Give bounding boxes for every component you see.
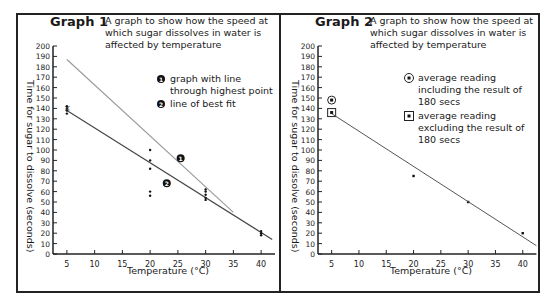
svg-text:25: 25 [173, 260, 183, 269]
svg-text:190: 190 [36, 52, 51, 61]
svg-text:50: 50 [40, 198, 50, 207]
svg-text:60: 60 [40, 188, 50, 197]
svg-text:180: 180 [301, 63, 316, 72]
svg-text:50: 50 [305, 198, 315, 207]
graph-1-plot: 0102030405060708090100110120130140150160… [0, 0, 280, 307]
svg-text:5: 5 [64, 260, 69, 269]
svg-text:110: 110 [36, 136, 51, 145]
svg-text:80: 80 [305, 167, 315, 176]
svg-text:40: 40 [518, 260, 528, 269]
svg-text:200: 200 [36, 42, 51, 51]
svg-text:90: 90 [305, 156, 315, 165]
svg-text:0: 0 [45, 250, 50, 259]
svg-text:30: 30 [463, 260, 473, 269]
svg-text:10: 10 [354, 260, 364, 269]
svg-text:100: 100 [301, 146, 316, 155]
svg-text:2: 2 [165, 180, 169, 187]
svg-text:35: 35 [490, 260, 500, 269]
svg-text:15: 15 [117, 260, 127, 269]
svg-text:30: 30 [305, 219, 315, 228]
svg-text:130: 130 [301, 115, 316, 124]
svg-text:140: 140 [301, 104, 316, 113]
svg-text:10: 10 [90, 260, 100, 269]
svg-text:35: 35 [228, 260, 238, 269]
svg-text:160: 160 [36, 84, 51, 93]
svg-text:25: 25 [436, 260, 446, 269]
svg-text:150: 150 [36, 94, 51, 103]
svg-text:40: 40 [305, 208, 315, 217]
svg-text:20: 20 [305, 229, 315, 238]
svg-text:10: 10 [40, 240, 50, 249]
svg-text:0: 0 [310, 250, 315, 259]
svg-text:40: 40 [256, 260, 266, 269]
svg-text:20: 20 [408, 260, 418, 269]
svg-text:1: 1 [179, 155, 183, 162]
svg-text:60: 60 [305, 188, 315, 197]
svg-text:110: 110 [301, 136, 316, 145]
svg-text:15: 15 [381, 260, 391, 269]
svg-text:×: × [64, 104, 71, 113]
svg-text:160: 160 [301, 84, 316, 93]
svg-text:2: 2 [159, 101, 163, 108]
svg-text:200: 200 [301, 42, 316, 51]
svg-text:100: 100 [36, 146, 51, 155]
graph-2-plot: 0102030405060708090100110120130140150160… [280, 0, 550, 307]
svg-text:170: 170 [301, 73, 316, 82]
svg-text:5: 5 [329, 260, 334, 269]
svg-text:30: 30 [201, 260, 211, 269]
svg-text:130: 130 [36, 115, 51, 124]
svg-text:70: 70 [40, 177, 50, 186]
svg-text:80: 80 [40, 167, 50, 176]
svg-text:180: 180 [36, 63, 51, 72]
svg-text:20: 20 [40, 229, 50, 238]
svg-text:190: 190 [301, 52, 316, 61]
svg-text:120: 120 [301, 125, 316, 134]
svg-text:30: 30 [40, 219, 50, 228]
svg-text:120: 120 [36, 125, 51, 134]
svg-text:10: 10 [305, 240, 315, 249]
svg-text:170: 170 [36, 73, 51, 82]
svg-text:70: 70 [305, 177, 315, 186]
svg-text:40: 40 [40, 208, 50, 217]
svg-text:150: 150 [301, 94, 316, 103]
svg-text:140: 140 [36, 104, 51, 113]
svg-text:1: 1 [159, 76, 163, 83]
svg-text:90: 90 [40, 156, 50, 165]
svg-text:20: 20 [145, 260, 155, 269]
